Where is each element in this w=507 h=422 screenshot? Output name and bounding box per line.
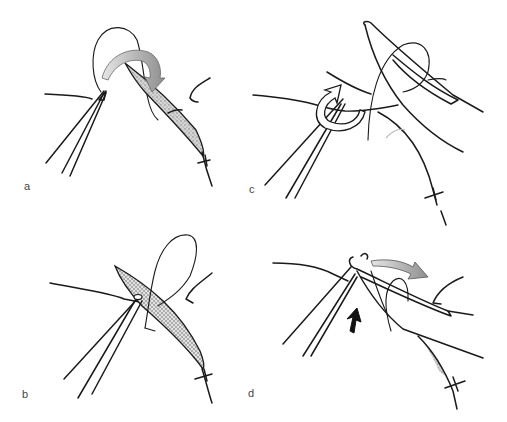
wound-line — [378, 112, 437, 205]
thread-tail — [433, 277, 463, 304]
up-arrow-icon — [347, 308, 361, 333]
panel-c: c — [253, 0, 507, 211]
panel-a-drawing — [0, 0, 253, 211]
forceps-icon — [46, 91, 106, 176]
panel-d-drawing — [253, 211, 507, 422]
panel-label-b: b — [22, 388, 28, 400]
thread-end — [145, 328, 155, 331]
curl-arrow-icon — [316, 85, 365, 131]
suture-technique-figure: a — [0, 0, 507, 422]
panel-c-drawing — [253, 0, 507, 211]
skin-edge-line — [273, 263, 348, 281]
panel-a: a — [0, 0, 253, 211]
forceps-icon — [64, 295, 142, 399]
panel-label-c: c — [249, 183, 255, 195]
thread-tail — [190, 78, 210, 102]
thread-tail — [428, 79, 446, 81]
thread-tail — [186, 273, 212, 303]
tissue-flap — [115, 266, 204, 369]
skin-edge-line — [45, 94, 92, 99]
panel-label-a: a — [24, 180, 30, 192]
thread-loop — [93, 28, 158, 120]
tissue-flap — [125, 63, 204, 156]
panel-label-d: d — [248, 387, 254, 399]
needle-holder-icon — [364, 22, 483, 152]
panel-d: d — [253, 211, 507, 422]
wound-line — [202, 152, 212, 186]
suture-knot-icon — [425, 188, 443, 200]
forceps-icon — [265, 99, 345, 198]
thread-loop — [368, 43, 429, 140]
panel-b: b — [0, 211, 253, 422]
panel-b-drawing — [0, 211, 253, 422]
thread-wrap — [371, 271, 388, 316]
wound-line-top — [441, 211, 446, 225]
right-arrow-icon — [371, 260, 428, 279]
